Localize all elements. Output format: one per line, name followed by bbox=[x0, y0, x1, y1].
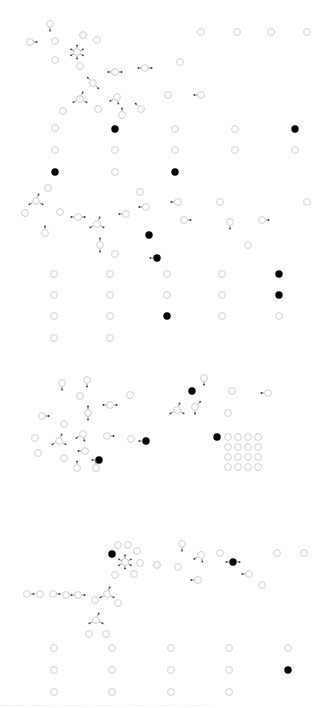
empty-node bbox=[232, 126, 239, 133]
empty-node bbox=[164, 292, 171, 299]
arrow-icon bbox=[242, 573, 246, 575]
empty-node bbox=[217, 199, 224, 206]
arrow-icon bbox=[61, 387, 63, 391]
empty-node bbox=[165, 92, 172, 99]
arrow-icon bbox=[139, 440, 143, 442]
grid-node bbox=[235, 454, 242, 461]
empty-node bbox=[194, 92, 205, 99]
empty-node bbox=[112, 169, 119, 176]
empty-node bbox=[134, 548, 141, 555]
arrow-icon bbox=[266, 219, 270, 221]
empty-node bbox=[112, 147, 119, 154]
section-3 bbox=[32, 375, 272, 472]
empty-node bbox=[301, 550, 308, 557]
empty-node bbox=[179, 541, 186, 552]
arrow-icon bbox=[100, 587, 115, 599]
empty-node bbox=[304, 29, 311, 36]
filled-node bbox=[275, 291, 282, 298]
empty-node bbox=[170, 403, 185, 415]
empty-node bbox=[172, 126, 179, 133]
arrow-icon bbox=[31, 593, 35, 595]
empty-node bbox=[110, 94, 121, 105]
empty-node bbox=[42, 226, 49, 237]
grid-node bbox=[245, 434, 252, 441]
empty-node bbox=[59, 380, 66, 391]
grid-node bbox=[255, 454, 262, 461]
empty-node bbox=[61, 421, 68, 428]
arrow-icon bbox=[138, 67, 153, 69]
empty-node bbox=[107, 292, 114, 299]
empty-node bbox=[138, 65, 153, 72]
arrow-icon bbox=[71, 216, 86, 218]
empty-node bbox=[92, 597, 99, 604]
empty-node bbox=[77, 393, 84, 400]
grid-node bbox=[235, 464, 242, 471]
footer-text: ........................................… bbox=[0, 700, 324, 708]
filled-node bbox=[111, 125, 118, 132]
grid-node bbox=[225, 444, 232, 451]
empty-node bbox=[226, 689, 233, 696]
empty-node bbox=[27, 39, 38, 46]
empty-node bbox=[71, 214, 86, 221]
empty-node bbox=[63, 592, 70, 599]
arrow-icon bbox=[52, 434, 67, 446]
filled-node bbox=[51, 168, 58, 175]
arrow-icon bbox=[99, 238, 101, 253]
empty-node bbox=[57, 209, 64, 216]
empty-node bbox=[135, 103, 145, 113]
empty-node bbox=[109, 667, 116, 674]
arrow-icon bbox=[86, 384, 88, 388]
empty-node bbox=[70, 45, 84, 60]
empty-node bbox=[90, 217, 105, 229]
empty-node bbox=[219, 271, 226, 278]
arrow-icon bbox=[171, 201, 175, 203]
empty-node bbox=[177, 59, 184, 66]
empty-node bbox=[51, 313, 58, 320]
arrow-icon bbox=[170, 403, 185, 415]
filled-node bbox=[150, 254, 161, 261]
filled-node bbox=[92, 456, 103, 463]
empty-node bbox=[259, 217, 270, 224]
grid-node bbox=[255, 464, 262, 471]
empty-node bbox=[268, 29, 275, 36]
empty-node bbox=[52, 125, 59, 132]
filled-node bbox=[291, 125, 298, 132]
empty-node bbox=[232, 147, 239, 154]
empty-node bbox=[168, 689, 175, 696]
arrow-icon bbox=[203, 382, 205, 386]
filled-node bbox=[284, 666, 291, 673]
arrow-icon bbox=[46, 415, 50, 417]
empty-node bbox=[226, 667, 233, 674]
empty-node bbox=[35, 450, 42, 457]
empty-node bbox=[137, 560, 144, 567]
empty-node bbox=[76, 431, 87, 442]
empty-node bbox=[201, 375, 208, 386]
empty-node bbox=[112, 572, 119, 579]
arrow-icon bbox=[191, 579, 195, 581]
empty-node bbox=[128, 436, 135, 443]
empty-node bbox=[78, 448, 89, 455]
arrow-icon bbox=[49, 28, 51, 32]
grid-node bbox=[255, 444, 262, 451]
section-1 bbox=[27, 21, 311, 176]
arrow-icon bbox=[73, 92, 88, 104]
empty-node bbox=[24, 591, 35, 598]
empty-node bbox=[60, 108, 67, 115]
empty-node bbox=[118, 555, 132, 570]
empty-node bbox=[52, 57, 59, 64]
empty-node bbox=[45, 185, 52, 192]
arrow-icon bbox=[119, 213, 123, 215]
arrow-icon bbox=[90, 217, 105, 229]
grid-node bbox=[255, 434, 262, 441]
arrow-icon bbox=[150, 257, 154, 259]
grid-node bbox=[225, 464, 232, 471]
empty-node bbox=[119, 108, 126, 119]
empty-node bbox=[139, 204, 150, 211]
grid-node bbox=[225, 434, 232, 441]
empty-node bbox=[154, 562, 161, 569]
empty-node bbox=[109, 689, 116, 696]
arrow-icon bbox=[57, 593, 61, 595]
empty-node bbox=[77, 63, 84, 70]
empty-node bbox=[51, 271, 58, 278]
empty-node bbox=[71, 592, 86, 599]
